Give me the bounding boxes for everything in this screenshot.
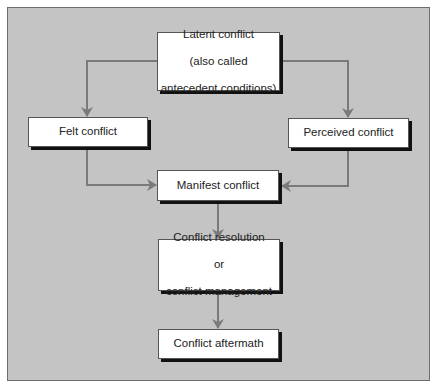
node-latent-conflict: Latent conflict (also called antecedent … xyxy=(157,32,280,91)
node-perceived-conflict: Perceived conflict xyxy=(288,118,409,148)
node-latent-line2: (also called xyxy=(161,55,277,69)
edge-latent-felt xyxy=(87,61,157,116)
node-conflict-resolution: Conflict resolution or conflict manageme… xyxy=(158,239,280,291)
node-resolution-line1: Conflict resolution xyxy=(166,231,272,245)
node-felt-conflict: Felt conflict xyxy=(28,117,148,147)
node-felt-label: Felt conflict xyxy=(59,125,117,139)
node-latent-line3: antecedent conditions) xyxy=(161,82,277,96)
node-resolution-line3: conflict management xyxy=(166,285,272,299)
edge-perceived-manifest xyxy=(282,148,348,186)
edge-felt-manifest xyxy=(87,147,156,185)
edge-latent-perceived xyxy=(280,61,348,117)
node-aftermath-label: Conflict aftermath xyxy=(173,337,263,351)
node-conflict-aftermath: Conflict aftermath xyxy=(158,329,279,359)
node-resolution-line2: or xyxy=(166,258,272,272)
node-perceived-label: Perceived conflict xyxy=(303,126,393,140)
node-latent-line1: Latent conflict xyxy=(161,28,277,42)
node-manifest-label: Manifest conflict xyxy=(177,179,259,193)
node-manifest-conflict: Manifest conflict xyxy=(157,170,279,201)
